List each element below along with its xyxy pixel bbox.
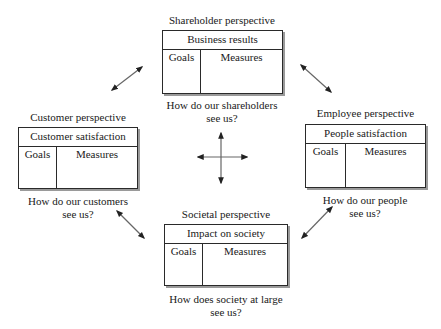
customer-question-line2: see us?	[8, 208, 148, 221]
center-cross-icon	[198, 133, 247, 183]
societal-question-line1: How does society at large	[146, 293, 306, 306]
shareholder-question-line2: see us?	[152, 112, 292, 125]
customer-question-line1: How do our customers	[8, 195, 148, 208]
customer-box: Customer satisfaction Goals Measures	[18, 127, 138, 189]
employee-goals-header: Goals	[306, 143, 346, 187]
employee-box-title: People satisfaction	[306, 125, 425, 144]
shareholder-box: Business results Goals Measures	[162, 30, 283, 94]
customer-goals-header: Goals	[19, 146, 57, 188]
arrow-customer-shareholder	[112, 67, 142, 90]
societal-perspective-label: Societal perspective	[164, 208, 288, 220]
societal-question: How does society at large see us?	[146, 293, 306, 319]
societal-question-line2: see us?	[146, 306, 306, 319]
societal-box-title: Impact on society	[165, 225, 287, 244]
shareholder-question-line1: How do our shareholders	[152, 99, 292, 112]
customer-perspective-label: Customer perspective	[18, 111, 138, 123]
customer-question: How do our customers see us?	[8, 195, 148, 221]
arrow-shareholder-employee	[301, 65, 331, 92]
employee-question: How do our people see us?	[295, 194, 435, 220]
shareholder-goals-header: Goals	[163, 49, 201, 93]
societal-goals-header: Goals	[165, 243, 203, 285]
customer-box-title: Customer satisfaction	[19, 128, 137, 147]
societal-measures-header: Measures	[203, 243, 287, 285]
employee-box: People satisfaction Goals Measures	[305, 124, 426, 188]
shareholder-perspective-label: Shareholder perspective	[162, 14, 282, 26]
customer-measures-header: Measures	[57, 146, 137, 188]
employee-question-line1: How do our people	[295, 194, 435, 207]
shareholder-question: How do our shareholders see us?	[152, 99, 292, 125]
shareholder-measures-header: Measures	[201, 49, 282, 93]
employee-perspective-label: Employee perspective	[305, 107, 426, 119]
employee-question-line2: see us?	[295, 207, 435, 220]
shareholder-box-title: Business results	[163, 31, 282, 50]
employee-measures-header: Measures	[346, 143, 425, 187]
societal-box: Impact on society Goals Measures	[164, 224, 288, 286]
